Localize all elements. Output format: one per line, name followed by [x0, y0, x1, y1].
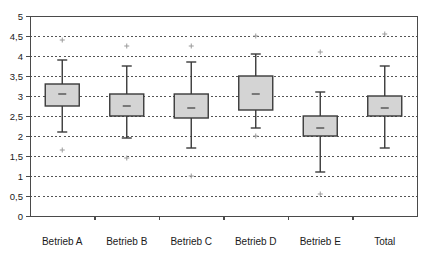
box-iqr [110, 94, 144, 116]
box-iqr [368, 96, 402, 116]
box-plot-chart: 00,511,522,533,544,55 Betrieb ABetrieb B… [0, 0, 427, 273]
y-tick-label: 4,5 [10, 31, 23, 42]
box-iqr [303, 116, 337, 136]
y-tick-label: 2,5 [10, 111, 23, 122]
x-tick-label: Total [374, 236, 395, 247]
box-iqr [174, 94, 208, 118]
x-tick-label: Betrieb C [170, 236, 212, 247]
box-iqr [45, 84, 79, 106]
x-tick-label: Betrieb D [235, 236, 277, 247]
y-tick-label: 1,5 [10, 151, 23, 162]
chart-canvas: 00,511,522,533,544,55 Betrieb ABetrieb B… [0, 0, 427, 273]
y-tick-label: 3,5 [10, 71, 23, 82]
x-tick-label: Betrieb E [300, 236, 341, 247]
y-tick-label: 3 [18, 91, 23, 102]
y-tick-label: 1 [18, 171, 23, 182]
y-tick-label: 4 [18, 51, 23, 62]
x-tick-label: Betrieb A [42, 236, 83, 247]
y-tick-label: 5 [18, 11, 23, 22]
y-tick-label: 0 [18, 211, 23, 222]
y-tick-label: 0,5 [10, 191, 23, 202]
y-tick-label: 2 [18, 131, 23, 142]
x-tick-label: Betrieb B [106, 236, 147, 247]
box-iqr [239, 76, 273, 110]
